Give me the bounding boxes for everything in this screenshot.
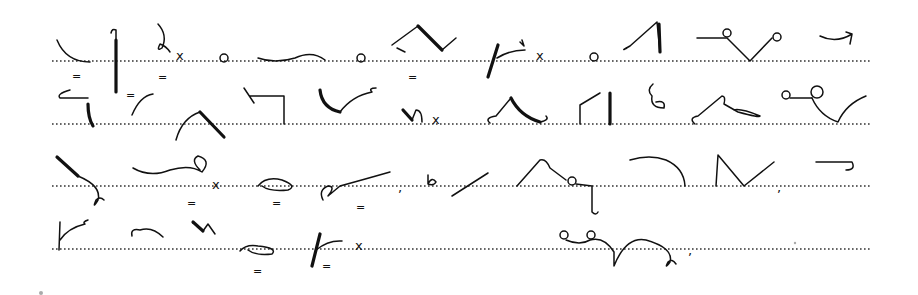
outline-v-hook (59, 220, 88, 250)
mark-cross: x (355, 238, 363, 253)
outline-n-stroke (580, 93, 600, 124)
mark-double-dash: = (126, 89, 135, 102)
outline-j (576, 184, 598, 214)
outline-b (428, 175, 436, 185)
mark-circle (568, 177, 576, 185)
outline-hook (59, 90, 88, 98)
shorthand-canvas: x x = = = = x (0, 0, 918, 295)
outline-loop (240, 246, 273, 255)
outline-thick-stroke (659, 24, 660, 52)
shorthand-page: x x = = = = x (0, 0, 918, 295)
outline-thick-curve (88, 104, 93, 126)
outline-thin (392, 26, 418, 45)
mark-double-dash: = (322, 260, 331, 273)
outline-thick (418, 26, 442, 50)
mark-circle (587, 231, 595, 239)
outline-thick-stroke (57, 157, 78, 176)
outline-loop (158, 24, 170, 52)
outline-thick-stroke (403, 110, 412, 120)
mark-circle (590, 53, 598, 61)
ink-speck (794, 242, 796, 244)
outline-peak (517, 160, 566, 186)
outline-thick-curve (511, 98, 540, 122)
mark-cross: x (176, 48, 184, 63)
mark-double-dash: = (187, 197, 196, 210)
mark-cross: x (536, 48, 544, 63)
outline-curve-hook (820, 32, 852, 44)
outline-n (203, 224, 215, 234)
mark-cross: x (212, 177, 220, 192)
mark-double-dash: = (408, 71, 417, 84)
outline-complex (692, 96, 760, 124)
outline-loop-sweep (321, 172, 390, 200)
mark-double-dash: = (272, 197, 281, 210)
line-2-outlines: = = = = x (59, 70, 866, 140)
outline-dash-hook (816, 162, 853, 170)
outline-arrow (497, 40, 525, 58)
outline-thick-curve (320, 90, 340, 112)
outline-squiggle (649, 84, 664, 108)
outline-corner (244, 88, 284, 124)
mark-circle (773, 33, 781, 41)
ink-speck (39, 291, 43, 295)
outline-curve-hook (812, 96, 866, 122)
outline-wave-loop (133, 156, 206, 174)
mark-circle-large (811, 86, 823, 98)
outline-slant (452, 173, 488, 196)
outline-curve-hook (340, 88, 376, 112)
outline-arch (630, 157, 685, 186)
mark-cross: x (432, 112, 440, 127)
outline-wave (258, 54, 325, 61)
outline-tick (397, 38, 456, 52)
outline-w (716, 155, 774, 186)
outline-curve (57, 40, 90, 62)
outline-loop-tail (78, 176, 104, 205)
mark-circle (723, 29, 731, 37)
mark-double-dash: = (158, 71, 167, 84)
mark-comma: , (688, 243, 692, 258)
outline-hook (540, 116, 547, 122)
outline-thick-stroke (193, 222, 203, 231)
mark-circle (560, 231, 568, 239)
mark-comma: , (398, 180, 402, 195)
outline-loop (258, 179, 292, 191)
mark-double-dash: = (72, 70, 81, 83)
mark-circle (782, 91, 790, 99)
mark-double-dash: = (356, 201, 365, 214)
line-1-outlines: x x (57, 22, 852, 92)
mark-comma: , (777, 180, 781, 195)
mark-double-dash: = (253, 265, 262, 278)
outline-arc (176, 112, 200, 140)
outline-hook-angle (624, 22, 660, 52)
ruled-lines (52, 61, 870, 249)
outline-small-arc (132, 229, 163, 237)
line-3-outlines: x = = = , , (57, 155, 853, 214)
outline-double-arch (566, 239, 676, 266)
outline-hook-rise (488, 98, 511, 123)
outline-zigzag (697, 38, 772, 61)
